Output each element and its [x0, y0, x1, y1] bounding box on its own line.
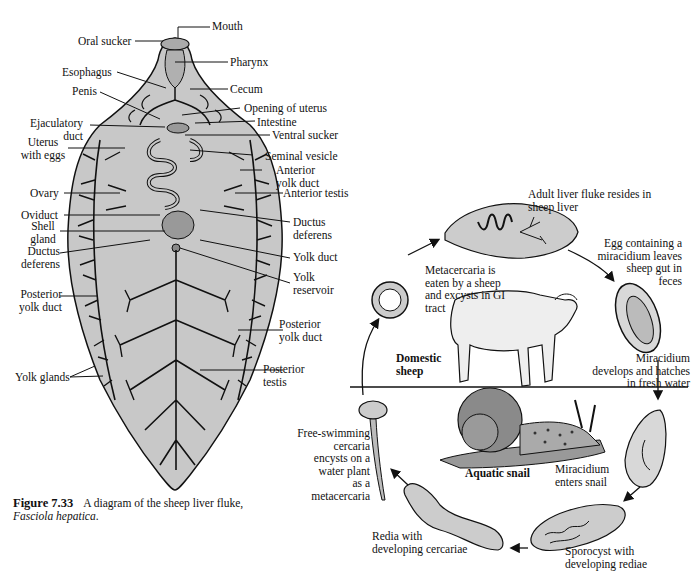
miracidium-illustration — [625, 410, 666, 487]
egg-illustration — [607, 277, 669, 358]
label-ovary: Ovary — [30, 187, 59, 200]
label-pharynx: Pharynx — [230, 56, 268, 69]
figure-caption: Figure 7.33A diagram of the sheep liver … — [13, 497, 243, 523]
label-ventral-sucker: Ventral sucker — [272, 129, 338, 142]
label-esophagus: Esophagus — [62, 66, 112, 79]
species-name: Fasciola hepatica — [13, 510, 96, 522]
label-egg-stage: Egg containing amiracidium leavessheep g… — [580, 237, 682, 287]
label-mouth: Mouth — [212, 20, 243, 33]
label-ductus-deferens-right: Ductusdeferens — [293, 216, 332, 241]
label-domestic-sheep: Domesticsheep — [396, 352, 441, 377]
figure-number: Figure 7.33 — [13, 496, 73, 510]
sporocyst-illustration — [531, 505, 625, 551]
label-intestine: Intestine — [257, 116, 297, 129]
label-anterior-yolk-duct: Anterioryolk duct — [276, 164, 319, 189]
label-cecum: Cecum — [230, 83, 263, 96]
label-posterior-testis: Posteriortestis — [263, 363, 305, 388]
label-miracidium-enters-stage: Miracidiumenters snail — [555, 463, 609, 488]
aquatic-snail-illustration — [440, 388, 605, 468]
caption-text: A diagram of the sheep liver fluke, — [83, 497, 243, 509]
label-metacercaria-stage: Metacercaria iseaten by a sheepand excys… — [425, 264, 505, 314]
label-posterior-yolk-duct-left: Posterioryolk duct — [14, 288, 62, 313]
label-redia-stage: Redia withdeveloping cercariae — [372, 530, 467, 555]
label-opening-of-uterus: Opening of uterus — [244, 102, 327, 115]
label-yolk-reservoir: Yolkreservoir — [293, 271, 334, 296]
label-cercaria-stage: Free-swimmingcercariaencysts on awater p… — [290, 427, 370, 502]
label-adult-stage: Adult liver fluke resides insheep liver — [528, 188, 651, 213]
label-shell-gland: Shellgland — [27, 220, 59, 245]
label-seminal-vesicle: Seminal vesicle — [265, 150, 338, 163]
label-ductus-deferens-left: Ductusdeferens — [14, 245, 60, 270]
metacercaria-illustration — [372, 282, 408, 318]
label-uterus-with-eggs: Uteruswith eggs — [18, 136, 68, 161]
label-miracidium-hatch-stage: Miracidiumdevelops and hatchesin fresh w… — [550, 352, 690, 390]
label-penis: Penis — [72, 85, 97, 98]
label-yolk-duct: Yolk duct — [293, 251, 338, 264]
label-posterior-yolk-duct-right: Posterioryolk duct — [279, 318, 322, 343]
label-sporocyst-stage: Sporocyst withdeveloping rediae — [565, 545, 647, 570]
label-oral-sucker: Oral sucker — [78, 35, 131, 48]
label-anterior-testis: Anterior testis — [283, 187, 348, 200]
label-aquatic-snail: Aquatic snail — [465, 467, 530, 480]
label-yolk-glands: Yolk glands — [15, 371, 70, 384]
